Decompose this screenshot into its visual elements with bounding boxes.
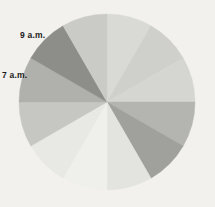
pie-label-9am: 9 a.m. (20, 31, 45, 40)
pie-chart: 9 a.m. 7 a.m. (0, 0, 215, 207)
pie-label-7am: 7 a.m. (2, 71, 27, 80)
pie-slice-group (19, 14, 195, 190)
